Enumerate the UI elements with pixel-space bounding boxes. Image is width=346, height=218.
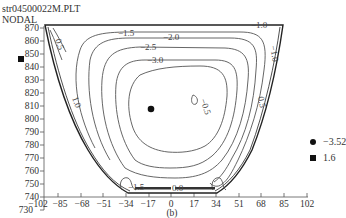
y-tick-label: 800 (25, 114, 40, 124)
legend: −3.52 1.6 (310, 136, 346, 163)
contour-label: −1.0 (251, 20, 268, 30)
y-tick-label: 850 (25, 49, 40, 59)
x-tick-label: −85 (53, 199, 68, 209)
y-tick-label: 790 (25, 127, 40, 137)
y-tick-label: 810 (25, 101, 40, 111)
legend-circle-icon (310, 139, 316, 145)
contour-label: 1.0 (70, 95, 83, 109)
x-axis: −102 −85 −68 −51 −34 −17 0 17 34 51 68 8… (28, 193, 314, 209)
y-tick-label: 860 (25, 36, 40, 46)
x-tick-label: 68 (256, 199, 266, 209)
legend-square-icon (310, 155, 316, 161)
x-tick-label: −17 (141, 199, 156, 209)
contour-label: −3.0 (147, 55, 164, 65)
x-tick-label: 34 (211, 199, 221, 209)
contour-label: −1.5 (118, 28, 135, 38)
y-tick-label: 840 (25, 62, 40, 72)
min-marker (148, 106, 155, 113)
contour-label: −2.5 (140, 42, 157, 52)
x-tick-label: 51 (234, 199, 244, 209)
contour-plot: 870 860 850 840 830 820 810 800 790 780 … (0, 0, 346, 218)
y-tick-label: 830 (25, 75, 40, 85)
max-marker (18, 56, 24, 62)
x-tick-label: 85 (279, 199, 289, 209)
contour-label: −2.0 (163, 32, 180, 42)
y-tick-label: 770 (25, 153, 40, 163)
legend-label-max: 1.6 (323, 152, 336, 163)
legend-label-min: −3.52 (323, 136, 346, 147)
x-tick-label: 17 (189, 199, 199, 209)
x-tick-label: 102 (300, 199, 315, 209)
x-tick-label: −51 (97, 199, 112, 209)
y-tick-label: 780 (25, 140, 40, 150)
x-tick-label: −68 (75, 199, 90, 209)
contour-label: −0.5 (198, 97, 213, 116)
contour-label: −1.5 (128, 182, 145, 192)
x-tick-label: −34 (119, 199, 134, 209)
contour-label: 0.0 (172, 183, 184, 193)
x-tick-label: −102 (28, 199, 48, 209)
contour-label: 0.5 (256, 96, 268, 109)
y-tick-label: 760 (25, 166, 40, 176)
y-tick-label: 870 (25, 23, 40, 33)
figure-caption: (b) (166, 208, 177, 218)
y-tick-label: 750 (25, 179, 40, 189)
y-tick-label: 820 (25, 88, 40, 98)
contour-label: −1.0 (268, 45, 281, 63)
contour-lines (50, 28, 265, 190)
y-axis: 870 860 850 840 830 820 810 800 790 780 … (19, 23, 44, 215)
